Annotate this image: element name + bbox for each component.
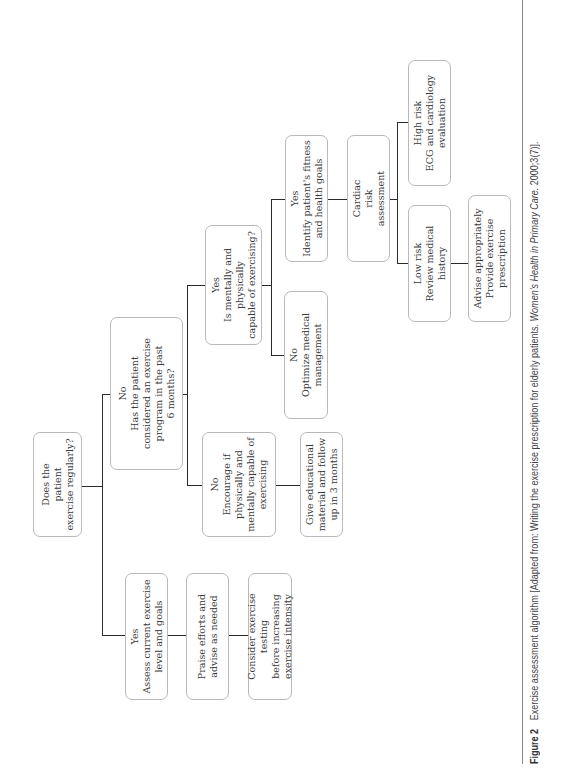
connector	[102, 394, 110, 395]
node-text: No Optimize medical management	[288, 313, 324, 397]
node-no-encourage: No Encourage if physically and mentally …	[202, 432, 276, 537]
figure-label: Figure 2	[528, 729, 540, 764]
node-text: Advise appropriately Provide exercise pr…	[472, 208, 508, 308]
node-cardiac-risk: Cardiac risk assessment	[347, 135, 390, 262]
node-high-risk: High risk ECG and cardiology evaluation	[408, 60, 451, 186]
node-consider-testing: Consider exercise testing before increas…	[248, 573, 292, 700]
connector	[276, 485, 300, 486]
node-advise-prescription: Advise appropriately Provide exercise pr…	[468, 195, 511, 322]
node-yes-capable: Yes Is mentally and physically capable o…	[205, 225, 262, 345]
node-text: Consider exercise testing before increas…	[246, 578, 294, 695]
node-text: Yes Assess current exercise level and go…	[129, 579, 165, 693]
node-text: Praise efforts and advise as needed	[196, 594, 220, 679]
node-text: Yes Is mentally and physically capable o…	[210, 230, 258, 340]
caption-citation: 2000;3(7)].	[528, 142, 540, 188]
connector	[102, 394, 103, 636]
node-exercise-regularly: Does the patient exercise regularly?	[33, 432, 82, 537]
connector	[328, 199, 347, 200]
node-text: Give educational material and follow up …	[304, 438, 340, 531]
node-text: Low risk Review medical history	[412, 226, 448, 302]
node-text: No Has the patient considered an exercis…	[117, 338, 177, 449]
connector	[82, 486, 103, 487]
connector	[271, 199, 272, 356]
node-low-risk: Low risk Review medical history	[408, 205, 451, 322]
connector	[187, 285, 188, 395]
connector	[187, 394, 188, 486]
connector	[271, 355, 284, 356]
connector	[187, 485, 202, 486]
node-praise: Praise efforts and advise as needed	[186, 573, 229, 700]
connector	[271, 199, 285, 200]
node-yes-assess: Yes Assess current exercise level and go…	[125, 573, 168, 700]
caption-text: Exercise assessment algorithm [Adapted f…	[528, 321, 540, 720]
connector	[397, 122, 408, 123]
node-text: Yes Identify patient's fitness and healt…	[289, 140, 325, 257]
node-text: No Encourage if physically and mentally …	[209, 437, 269, 531]
node-no-optimize: No Optimize medical management	[284, 291, 328, 419]
node-text: High risk ECG and cardiology evaluation	[412, 75, 448, 171]
connector	[187, 285, 205, 286]
caption-rule	[522, 0, 523, 764]
connector	[102, 635, 125, 636]
connector	[451, 263, 468, 264]
node-no-considered-program: No Has the patient considered an exercis…	[110, 317, 183, 470]
caption-journal: Women's Health in Primary Care.	[528, 188, 540, 322]
node-text: Does the patient exercise regularly?	[40, 438, 76, 530]
flowchart-figure: Does the patient exercise regularly? Yes…	[0, 0, 566, 784]
node-text: Cardiac risk assessment	[351, 171, 387, 226]
node-yes-identify-goals: Yes Identify patient's fitness and healt…	[285, 135, 328, 262]
connector	[397, 122, 398, 264]
node-give-material: Give educational material and follow up …	[300, 432, 343, 537]
connector	[397, 263, 408, 264]
connector	[168, 635, 186, 636]
figure-caption: Figure 2Exercise assessment algorithm [A…	[528, 110, 540, 764]
